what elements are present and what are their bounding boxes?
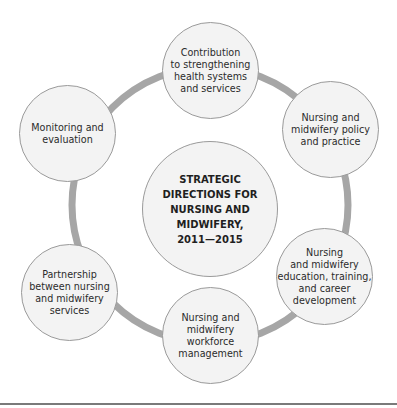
- node-label: Contribution to strengthening health sys…: [171, 47, 251, 95]
- node-education-training: Nursing and midwifery education, trainin…: [276, 228, 373, 325]
- node-label: Partnership between nursing and midwifer…: [29, 269, 109, 317]
- node-label: Nursing and midwifery workforce manageme…: [178, 312, 242, 360]
- strategic-directions-diagram: STRATEGIC DIRECTIONS FOR NURSING AND MID…: [0, 0, 397, 408]
- node-label: Nursing and midwifery education, trainin…: [278, 247, 372, 307]
- bottom-divider: [0, 403, 397, 405]
- node-label: Nursing and midwifery policy and practic…: [291, 112, 370, 148]
- node-workforce-management: Nursing and midwifery workforce manageme…: [162, 287, 259, 384]
- center-title-node: STRATEGIC DIRECTIONS FOR NURSING AND MID…: [142, 141, 278, 277]
- center-title: STRATEGIC DIRECTIONS FOR NURSING AND MID…: [162, 172, 257, 247]
- node-partnership: Partnership between nursing and midwifer…: [21, 244, 118, 341]
- node-health-systems: Contribution to strengthening health sys…: [162, 22, 259, 119]
- node-monitoring-evaluation: Monitoring and evaluation: [19, 85, 116, 182]
- node-label: Monitoring and evaluation: [31, 122, 103, 146]
- node-policy-practice: Nursing and midwifery policy and practic…: [282, 81, 379, 178]
